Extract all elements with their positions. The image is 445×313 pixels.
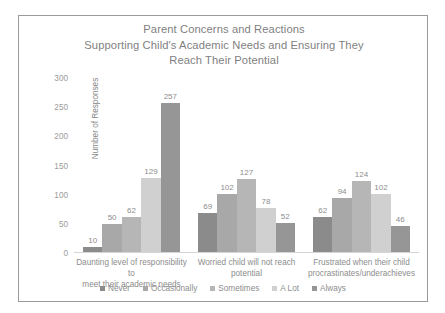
x-axis-line	[74, 252, 419, 253]
bar-slot: 46	[391, 78, 410, 253]
bar-value-label: 102	[374, 183, 387, 192]
bar-group-bars: 105062129257	[74, 78, 189, 253]
legend-label: A Lot	[280, 284, 299, 293]
legend-label: Always	[320, 284, 346, 293]
y-tick-label: 150	[54, 161, 68, 170]
category-label-line: Daunting level of responsibility to	[76, 257, 187, 279]
legend-swatch-icon	[210, 286, 215, 291]
bar[interactable]	[352, 181, 371, 253]
plot-area: Number of Responses 300250200150100500 1…	[74, 78, 419, 253]
chart-title-line-2: Supporting Child's Academic Needs and En…	[37, 38, 411, 54]
legend-label: Occasionally	[151, 284, 197, 293]
bar-value-label: 94	[338, 187, 347, 196]
y-tick-label: 250	[54, 103, 68, 112]
legend-label: Never	[108, 284, 130, 293]
chart-title-line-1: Parent Concerns and Reactions	[37, 22, 411, 38]
bar-value-label: 127	[240, 168, 253, 177]
bar-group: 629412410246	[304, 78, 419, 253]
bar-value-label: 78	[261, 197, 270, 206]
bar-value-label: 50	[108, 213, 117, 222]
legend-label: Sometimes	[218, 284, 259, 293]
bar[interactable]	[276, 223, 295, 253]
bar-slot: 124	[352, 78, 371, 253]
category-label-line: procrastinates/underachieves	[306, 268, 417, 279]
bar[interactable]	[122, 217, 141, 253]
bar-slot: 102	[217, 78, 236, 253]
bar-value-label: 69	[203, 202, 212, 211]
legend-item[interactable]: Never	[100, 284, 130, 293]
legend-item[interactable]: A Lot	[272, 284, 299, 293]
bar-value-label: 62	[127, 206, 136, 215]
bar[interactable]	[161, 103, 180, 253]
bar-slot: 52	[276, 78, 295, 253]
y-tick-label: 50	[59, 219, 68, 228]
bar-value-label: 124	[355, 170, 368, 179]
bar[interactable]	[141, 178, 160, 253]
category-label-line: potential	[191, 268, 302, 279]
bar-value-label: 62	[318, 206, 327, 215]
bar-group-bars: 629412410246	[304, 78, 419, 253]
bar-slot: 69	[198, 78, 217, 253]
category-label-line: Frustrated when their child	[306, 257, 417, 268]
category-label-line: Worried child will not reach	[191, 257, 302, 268]
bar[interactable]	[391, 226, 410, 253]
y-tick-label: 200	[54, 132, 68, 141]
legend-swatch-icon	[272, 286, 277, 291]
bar-slot: 78	[256, 78, 275, 253]
bar[interactable]	[217, 194, 236, 254]
bar[interactable]	[256, 208, 275, 254]
bar-slot: 129	[141, 78, 160, 253]
bar-value-label: 129	[144, 167, 157, 176]
bar[interactable]	[313, 217, 332, 253]
bar-slot: 102	[371, 78, 390, 253]
y-tick-label: 300	[54, 74, 68, 83]
legend-item[interactable]: Occasionally	[143, 284, 197, 293]
bar-group: 691021277852	[189, 78, 304, 253]
bar[interactable]	[332, 198, 351, 253]
legend-swatch-icon	[312, 286, 317, 291]
bar-slot: 257	[161, 78, 180, 253]
bar-value-label: 102	[220, 183, 233, 192]
bar-slot: 127	[237, 78, 256, 253]
bar[interactable]	[237, 179, 256, 253]
bar-groups: 105062129257691021277852629412410246	[74, 78, 419, 253]
y-tick-label: 0	[63, 249, 68, 258]
bar-slot: 50	[102, 78, 121, 253]
bar[interactable]	[371, 194, 390, 254]
legend-swatch-icon	[143, 286, 148, 291]
bar-value-label: 52	[281, 212, 290, 221]
bar-slot: 62	[122, 78, 141, 253]
bar-value-label: 46	[396, 215, 405, 224]
bar-slot: 94	[332, 78, 351, 253]
y-tick-label: 100	[54, 190, 68, 199]
bar-slot: 10	[83, 78, 102, 253]
bar[interactable]	[198, 213, 217, 253]
legend-item[interactable]: Always	[312, 284, 346, 293]
bar[interactable]	[102, 224, 121, 253]
bar-group: 105062129257	[74, 78, 189, 253]
legend-swatch-icon	[100, 286, 105, 291]
legend-item[interactable]: Sometimes	[210, 284, 259, 293]
bar-slot: 62	[313, 78, 332, 253]
chart-legend: NeverOccasionallySometimesA LotAlways	[19, 284, 427, 293]
chart-figure: Parent Concerns and Reactions Supporting…	[18, 15, 428, 302]
bar-group-bars: 691021277852	[189, 78, 304, 253]
bar-value-label: 10	[88, 236, 97, 245]
chart-title: Parent Concerns and Reactions Supporting…	[37, 22, 411, 69]
bar-value-label: 257	[164, 92, 177, 101]
